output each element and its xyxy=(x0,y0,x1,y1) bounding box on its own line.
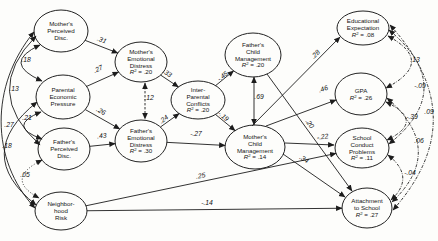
coef-label-educational-expectation-attachment-to-school: .09 xyxy=(424,108,434,115)
node-label-parental-economic-pressure: ParentalEconomicPressure xyxy=(49,86,76,107)
covariance-gpa-school-conduct-problems xyxy=(386,102,406,140)
covariance-educational-expectation-gpa xyxy=(386,36,412,88)
coef-label-mothers-emotional-distress-fathers-emotional-distress: .12 xyxy=(144,94,154,101)
coef-label-educational-expectation-school-conduct-problems: -.09 xyxy=(414,82,426,89)
path-mothers-child-management-to-gpa xyxy=(266,100,336,126)
coef-label-parental-economic-pressure-mothers-emotional-distress: .27 xyxy=(92,64,104,74)
path-fathers-emotional-distress-to-mothers-child-management xyxy=(167,142,225,145)
coef-label-fathers-emotional-distress-inter-parental-conflicts: .24 xyxy=(158,113,170,124)
coef-label-fathers-emotional-distress-mothers-child-management: -.27 xyxy=(190,130,202,137)
coef-label-fathers-perceived-disc-fathers-emotional-distress: .43 xyxy=(97,132,107,140)
path-mothers-child-management-to-school-conduct-problems xyxy=(285,143,334,145)
coef-label-mothers-perceived-disc-neighborhood-risk: .27 xyxy=(4,121,14,128)
coef-label-gpa-attachment-to-school: .06 xyxy=(414,137,424,144)
sem-path-diagram-figure: Mother'sPerceivedDisc.ParentalEconomicPr… xyxy=(0,0,438,241)
coef-label-neighborhood-risk-school-conduct-problems: .25 xyxy=(195,171,206,180)
coef-label-fathers-child-management-mothers-child-management: .69 xyxy=(254,93,264,100)
path-neighborhood-risk-to-school-conduct-problems xyxy=(86,153,336,205)
coef-label-mothers-perceived-disc-fathers-perceived-disc: .13 xyxy=(9,85,19,92)
coef-label-gpa-school-conduct-problems: -.39 xyxy=(406,113,418,120)
coef-label-mothers-perceived-disc-parental-economic-pressure: .18 xyxy=(21,56,31,63)
path-fathers-perceived-disc-to-fathers-emotional-distress xyxy=(90,144,115,147)
coef-label-educational-expectation-gpa: .13 xyxy=(410,56,420,63)
node-label-school-conduct-problems: SchoolConductProblemsR2 = .11 xyxy=(349,134,375,161)
covariance-fathers-perceived-disc-neighborhood-risk xyxy=(22,160,42,198)
coef-label-school-conduct-problems-attachment-to-school: -.04 xyxy=(404,169,416,176)
node-label-attachment-to-school: Attachmentto SchoolR2 = .27 xyxy=(351,197,383,218)
coef-label-parental-economic-pressure-fathers-emotional-distress: .26 xyxy=(95,105,107,116)
path-diagram-canvas: Mother'sPerceivedDisc.ParentalEconomicPr… xyxy=(0,0,438,241)
coef-label-parental-economic-pressure-fathers-perceived-disc: .21 xyxy=(22,114,32,121)
coef-label-mothers-perceived-disc-mothers-emotional-distress: .31 xyxy=(96,35,108,45)
coef-label-mothers-child-management-gpa: .46 xyxy=(318,84,329,94)
coef-label-parental-economic-pressure-neighborhood-risk: .18 xyxy=(2,142,12,149)
coef-label-neighborhood-risk-attachment-to-school: -.14 xyxy=(201,199,213,206)
path-neighborhood-risk-to-attachment-to-school xyxy=(87,208,342,211)
path-parental-economic-pressure-to-mothers-emotional-distress xyxy=(87,72,119,86)
coef-label-fathers-perceived-disc-neighborhood-risk: .05 xyxy=(20,171,30,178)
node-label-fathers-emotional-distress: Father'sEmotionalDistressR2 = .30 xyxy=(127,127,155,154)
path-mothers-child-management-to-attachment-to-school xyxy=(283,154,345,197)
coef-label-mothers-child-management-school-conduct-problems: -.22 xyxy=(316,132,329,141)
node-label-mothers-emotional-distress: Mother'sEmotionalDistressR2 = .20 xyxy=(127,48,155,75)
coef-label-mothers-child-management-attachment-to-school: .34 xyxy=(298,153,310,164)
